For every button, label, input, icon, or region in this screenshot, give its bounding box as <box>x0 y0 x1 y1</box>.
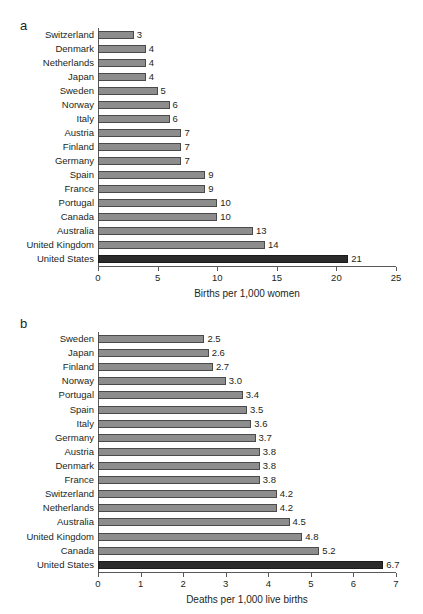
bar <box>98 115 170 123</box>
category-label: United States <box>37 254 94 264</box>
category-label: Denmark <box>55 461 94 471</box>
bar <box>98 185 205 193</box>
bar-row: Finland2.7 <box>98 360 396 374</box>
category-label: Finland <box>63 363 94 373</box>
category-label: Japan <box>68 348 94 358</box>
x-axis-tick-label: 20 <box>331 273 342 283</box>
bar-container: 4.2 <box>98 504 396 512</box>
bar-container: 5.2 <box>98 547 396 555</box>
bar-container: 13 <box>98 227 396 235</box>
bar-value-label: 6.7 <box>386 560 399 570</box>
bar-container: 4 <box>98 59 396 67</box>
x-axis-title-b: Deaths per 1,000 live births <box>98 594 396 605</box>
category-label: Germany <box>55 156 94 166</box>
bar-row: United Kingdom14 <box>98 238 396 252</box>
bar-container: 6 <box>98 115 396 123</box>
category-label: Austria <box>64 447 94 457</box>
bar-row: Austria7 <box>98 126 396 140</box>
bar <box>98 157 181 165</box>
x-axis-tick-label: 3 <box>223 579 228 589</box>
category-label: Australia <box>57 518 94 528</box>
bar <box>98 73 146 81</box>
category-label: Canada <box>61 546 94 556</box>
bar <box>98 518 290 526</box>
bar-container: 3.6 <box>98 420 396 428</box>
panel-a-letter: a <box>20 19 27 32</box>
category-label: Portugal <box>59 198 94 208</box>
bar <box>98 490 277 498</box>
bar-container: 7 <box>98 157 396 165</box>
bar-row: Australia13 <box>98 224 396 238</box>
bar-value-label: 3.5 <box>250 405 263 415</box>
bar-container: 3.8 <box>98 448 396 456</box>
category-label: Netherlands <box>43 504 94 514</box>
bar-row: Austria3.8 <box>98 445 396 459</box>
bar <box>98 434 256 442</box>
bar-container: 7 <box>98 129 396 137</box>
bar <box>98 213 217 221</box>
category-label: Germany <box>55 433 94 443</box>
chart-panel-b: b Sweden2.5Japan2.6Finland2.7Norway3.0Po… <box>0 300 423 614</box>
bar <box>98 227 253 235</box>
bar-row: Germany7 <box>98 154 396 168</box>
x-axis-tick <box>396 573 397 577</box>
x-axis-tick-label: 10 <box>212 273 223 283</box>
bar <box>98 363 213 371</box>
bar <box>98 504 277 512</box>
x-axis-tick <box>141 573 142 577</box>
bar-row: Sweden5 <box>98 84 396 98</box>
bar-container: 14 <box>98 241 396 249</box>
bar-value-label: 4 <box>149 72 154 82</box>
category-label: Norway <box>62 100 94 110</box>
category-label: Italy <box>77 419 94 429</box>
category-label: United Kingdom <box>26 532 94 542</box>
bar-value-label: 9 <box>208 184 213 194</box>
bar-rows-a: Switzerland3Denmark4Netherlands4Japan4Sw… <box>98 28 396 266</box>
x-axis-tick <box>217 267 218 271</box>
x-axis-tick-label: 25 <box>391 273 402 283</box>
bar-value-label: 4.5 <box>293 518 306 528</box>
bar-container: 10 <box>98 199 396 207</box>
bar-container: 4.5 <box>98 518 396 526</box>
plot-area-a: Switzerland3Denmark4Netherlands4Japan4Sw… <box>98 28 396 266</box>
category-label: Finland <box>63 142 94 152</box>
bar-container: 3.7 <box>98 434 396 442</box>
x-axis-tick <box>183 573 184 577</box>
bar-container: 10 <box>98 213 396 221</box>
x-axis-line-b <box>98 572 396 573</box>
bar-row: Spain3.5 <box>98 403 396 417</box>
bar <box>98 547 319 555</box>
bar <box>98 335 204 343</box>
bar-value-label: 7 <box>184 156 189 166</box>
bar-value-label: 21 <box>351 254 362 264</box>
bar <box>98 31 134 39</box>
x-axis-tick <box>226 573 227 577</box>
x-axis-tick-label: 5 <box>308 579 313 589</box>
bar <box>98 377 226 385</box>
x-axis-tick-label: 15 <box>272 273 283 283</box>
category-label: Spain <box>70 170 94 180</box>
bar-row: Australia4.5 <box>98 515 396 529</box>
bar-row: Sweden2.5 <box>98 332 396 346</box>
bar <box>98 129 181 137</box>
bar <box>98 199 217 207</box>
x-axis-tick-label: 1 <box>138 579 143 589</box>
bar-value-label: 10 <box>220 198 231 208</box>
bar <box>98 462 260 470</box>
bar-row: United Kingdom4.8 <box>98 530 396 544</box>
category-label: France <box>64 475 94 485</box>
bar-container: 2.5 <box>98 335 396 343</box>
bar-container: 3.5 <box>98 406 396 414</box>
bar-value-label: 5 <box>161 86 166 96</box>
x-axis-tick <box>336 267 337 271</box>
bar-row: Italy6 <box>98 112 396 126</box>
bar-container: 4 <box>98 73 396 81</box>
plot-area-b: Sweden2.5Japan2.6Finland2.7Norway3.0Port… <box>98 332 396 572</box>
bar-row: United States21 <box>98 252 396 266</box>
category-label: Italy <box>77 114 94 124</box>
bar-value-label: 3.0 <box>229 377 242 387</box>
bar-row: Japan4 <box>98 70 396 84</box>
x-axis-tick-label: 0 <box>95 579 100 589</box>
category-label: Austria <box>64 128 94 138</box>
bar-value-label: 3.8 <box>263 461 276 471</box>
